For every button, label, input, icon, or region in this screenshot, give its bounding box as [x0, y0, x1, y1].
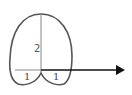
right-base-label: 1: [53, 71, 59, 82]
height-label: 2: [34, 43, 40, 54]
arrow-head-icon: [116, 65, 125, 75]
diagram-canvas: 2 1 1: [0, 0, 132, 95]
left-base-label: 1: [24, 71, 30, 82]
